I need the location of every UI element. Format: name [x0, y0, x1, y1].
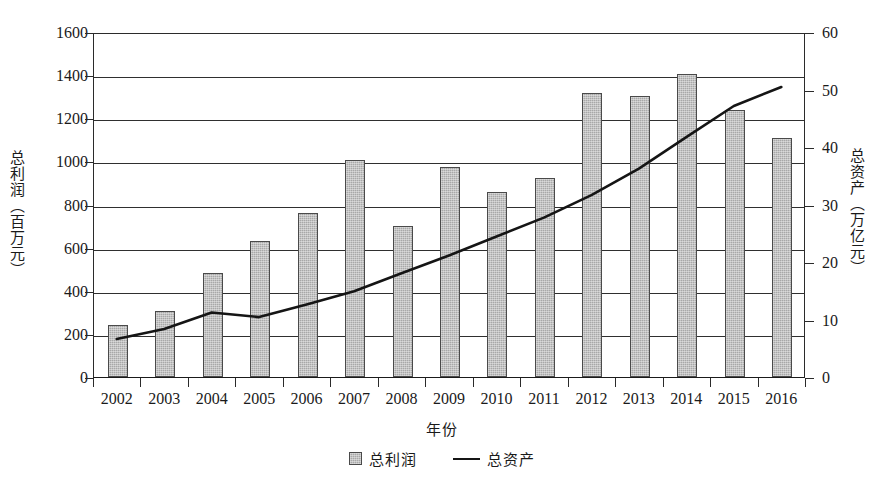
- x-tick-mark: [520, 378, 521, 387]
- x-tick-mark: [615, 378, 616, 387]
- x-tick-mark: [330, 378, 331, 387]
- y-tick-label-left: 600: [28, 240, 88, 258]
- y-tick-label-right: 60: [822, 24, 862, 42]
- y-tick-label-left: 0: [28, 369, 88, 387]
- bar-2015: [725, 110, 745, 377]
- y-tick-mark-left: [85, 33, 93, 34]
- x-tick-mark: [710, 378, 711, 387]
- x-tick-mark: [378, 378, 379, 387]
- y-tick-label-right: 30: [822, 197, 862, 215]
- x-tick-mark: [663, 378, 664, 387]
- y-tick-label-right: 0: [822, 369, 862, 387]
- y-tick-label-left: 200: [28, 326, 88, 344]
- y-tick-label-left: 800: [28, 197, 88, 215]
- legend-label-total-assets: 总资产: [487, 448, 535, 469]
- y-tick-label-right: 10: [822, 312, 862, 330]
- y-tick-mark-right: [805, 33, 814, 34]
- y-tick-mark-left: [85, 76, 93, 77]
- y-tick-mark-right: [805, 148, 814, 149]
- x-tick-mark: [93, 378, 94, 387]
- y-tick-mark-right: [805, 91, 814, 92]
- bar-2009: [440, 167, 460, 377]
- x-tick-mark: [758, 378, 759, 387]
- plot-area: [93, 33, 805, 378]
- legend-item-total-assets: 总资产: [453, 448, 535, 469]
- x-tick-label-2016: 2016: [751, 390, 811, 408]
- x-tick-mark: [805, 378, 806, 387]
- y-tick-mark-right: [805, 206, 814, 207]
- y-tick-mark-left: [85, 292, 93, 293]
- y-tick-label-left: 1200: [28, 110, 88, 128]
- bar-2006: [298, 213, 318, 377]
- x-tick-mark: [283, 378, 284, 387]
- chart-legend: 总利润 总资产: [0, 448, 883, 469]
- x-tick-mark: [188, 378, 189, 387]
- y-tick-label-right: 40: [822, 139, 862, 157]
- y-tick-label-left: 400: [28, 283, 88, 301]
- bar-2016: [772, 138, 792, 377]
- x-axis-title: 年份: [0, 418, 883, 439]
- gridline: [94, 163, 804, 164]
- x-tick-mark: [425, 378, 426, 387]
- bar-2008: [393, 226, 413, 377]
- chart-figure: 总利润（百万元） 总资产（万亿元） 年份 0200400600800100012…: [0, 0, 883, 488]
- bar-2007: [345, 160, 365, 377]
- y-tick-mark-right: [805, 378, 814, 379]
- gridline: [94, 120, 804, 121]
- bar-swatch-icon: [349, 452, 362, 465]
- y-tick-label-right: 20: [822, 254, 862, 272]
- gridline: [94, 77, 804, 78]
- legend-item-total-profit: 总利润: [349, 448, 417, 469]
- y-tick-label-left: 1400: [28, 67, 88, 85]
- bar-2003: [155, 311, 175, 377]
- x-tick-mark: [568, 378, 569, 387]
- bar-2011: [535, 178, 555, 377]
- y-tick-mark-left: [85, 335, 93, 336]
- y-tick-label-right: 50: [822, 82, 862, 100]
- line-swatch-icon: [453, 458, 480, 460]
- x-tick-mark: [235, 378, 236, 387]
- y-tick-mark-right: [805, 321, 814, 322]
- bar-2012: [582, 93, 602, 377]
- bar-2005: [250, 241, 270, 377]
- bar-2014: [677, 74, 697, 377]
- bar-2004: [203, 273, 223, 377]
- bar-2013: [630, 96, 650, 377]
- y-tick-mark-left: [85, 249, 93, 250]
- y-tick-mark-left: [85, 162, 93, 163]
- bar-2010: [487, 192, 507, 377]
- y-tick-mark-left: [85, 378, 93, 379]
- x-tick-mark: [140, 378, 141, 387]
- y-tick-label-left: 1600: [28, 24, 88, 42]
- y-axis-title-left: 总利润（百万元）: [8, 150, 23, 278]
- bar-2002: [108, 325, 128, 377]
- y-tick-mark-right: [805, 263, 814, 264]
- y-tick-mark-left: [85, 206, 93, 207]
- y-tick-mark-left: [85, 119, 93, 120]
- y-tick-label-left: 1000: [28, 153, 88, 171]
- legend-label-total-profit: 总利润: [369, 448, 417, 469]
- x-tick-mark: [473, 378, 474, 387]
